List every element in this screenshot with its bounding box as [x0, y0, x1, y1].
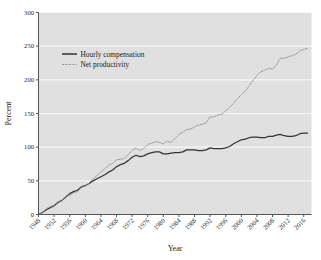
- y-tick-label: 100: [24, 143, 35, 150]
- x-axis-title: Year: [168, 244, 183, 253]
- y-tick-label: 250: [24, 42, 35, 49]
- y-tick-label: 200: [24, 76, 35, 83]
- legend-label-1: Hourly compensation: [81, 50, 145, 59]
- productivity-pay-chart: 050100150200250300 194819521956196019641…: [0, 0, 321, 260]
- chart-figure: 050100150200250300 194819521956196019641…: [0, 0, 321, 260]
- legend-label-2: Net productivity: [81, 60, 130, 69]
- y-tick-label: 150: [24, 110, 35, 117]
- y-tick-label: 50: [27, 177, 34, 184]
- y-axis-title: Percent: [4, 101, 13, 126]
- y-tick-label: 300: [24, 9, 35, 16]
